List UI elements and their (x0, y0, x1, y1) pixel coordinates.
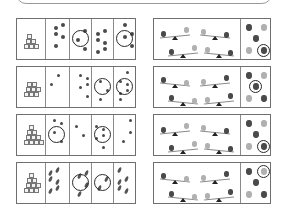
seesaw-icon (168, 45, 198, 59)
fruit-option-1[interactable] (246, 120, 252, 127)
seesaw-icon (168, 189, 198, 203)
dot-icon (61, 23, 65, 27)
cube-icon (29, 173, 34, 178)
fruit-option-1[interactable] (246, 24, 252, 31)
answer-cell-3[interactable] (92, 115, 114, 155)
dot-icon (54, 44, 58, 48)
acorn-icon (79, 86, 82, 89)
left-counting-box-1 (16, 18, 136, 60)
fruit-option-1[interactable] (246, 168, 252, 175)
fruit-icon (161, 31, 166, 37)
seesaw-icon (204, 189, 234, 203)
answer-cell-4[interactable] (114, 163, 137, 203)
fruit-option-1[interactable] (246, 72, 252, 79)
answer-cell-1[interactable] (46, 19, 70, 59)
fruit-option-2[interactable] (261, 24, 267, 31)
fruit-icon (205, 143, 210, 149)
fruit-option-3[interactable] (253, 179, 259, 186)
fruit-icon (228, 146, 233, 152)
fruit-icon (224, 171, 229, 177)
fruit-icon (192, 194, 197, 200)
seesaw-pivot (172, 36, 178, 40)
seesaw-pivot (172, 180, 178, 184)
dot-icon (54, 26, 58, 30)
seesaw-pivot (212, 36, 218, 40)
cube-icon (34, 188, 39, 193)
cube-stack-icon (23, 125, 41, 145)
answer-cell-1[interactable] (46, 67, 70, 107)
acorn-icon (99, 98, 102, 101)
cube-cell (17, 115, 46, 155)
left-counting-box-2 (16, 66, 136, 108)
acorn-icon (50, 83, 53, 86)
seed-icon (60, 122, 63, 125)
fruit-option-2[interactable] (261, 120, 267, 127)
answer-cell-1[interactable] (46, 163, 70, 203)
acorn-icon (57, 74, 60, 77)
fruit-option-4[interactable] (246, 191, 252, 198)
banana-icon (48, 176, 53, 183)
answer-cell-2[interactable] (70, 163, 92, 203)
seed-icon (122, 140, 125, 143)
fruit-option-5[interactable] (261, 95, 267, 102)
fruit-icon (228, 189, 233, 195)
seed-icon (129, 119, 132, 122)
seesaw-icon (204, 45, 234, 59)
answer-options[interactable] (241, 19, 272, 59)
fruit-icon (184, 123, 189, 129)
seesaw-pivot (180, 102, 186, 106)
fruit-icon (184, 80, 189, 86)
fruit-icon (205, 47, 210, 53)
answer-cell-3[interactable] (92, 67, 114, 107)
answer-circle (94, 174, 111, 191)
answer-circle (72, 30, 89, 47)
fruit-option-3[interactable] (253, 131, 259, 138)
answer-cell-2[interactable] (70, 67, 92, 107)
fruit-icon (201, 125, 206, 131)
banana-icon (55, 185, 60, 192)
fruit-option-2[interactable] (261, 72, 267, 79)
seesaw-pivot (212, 84, 218, 88)
dot-icon (103, 29, 107, 33)
seesaw-pivot (216, 150, 222, 154)
header-banner (16, 0, 272, 4)
seesaw-icon (168, 141, 198, 155)
fruit-option-4[interactable] (246, 95, 252, 102)
seesaw-pivot (216, 198, 222, 202)
fruit-option-4[interactable] (246, 47, 252, 54)
fruit-icon (192, 141, 197, 147)
answer-cell-1[interactable] (46, 115, 70, 155)
seesaw-pivot (216, 54, 222, 58)
fruit-option-3[interactable] (253, 35, 259, 42)
answer-options[interactable] (241, 67, 272, 107)
answer-cell-3[interactable] (92, 19, 114, 59)
fruit-option-5[interactable] (261, 191, 267, 198)
acorn-icon (126, 71, 129, 74)
banana-icon (48, 188, 53, 195)
seesaw-icon (160, 75, 190, 89)
fruit-icon (224, 75, 229, 81)
fruit-option-4[interactable] (246, 143, 252, 150)
seesaw-icon (168, 93, 198, 107)
seesaw-icon (200, 171, 230, 185)
fruit-icon (169, 95, 174, 101)
answer-options[interactable] (241, 163, 272, 203)
answer-cell-2[interactable] (70, 115, 92, 155)
answer-cell-3[interactable] (92, 163, 114, 203)
acorn-icon (86, 95, 89, 98)
fruit-icon (205, 193, 210, 199)
fruit-icon (169, 191, 174, 197)
fruit-icon (192, 45, 197, 51)
answer-cell-4[interactable] (114, 67, 137, 107)
right-seesaw-box-2 (153, 66, 271, 108)
fruit-icon (228, 50, 233, 56)
acorn-icon (119, 98, 122, 101)
answer-cell-2[interactable] (70, 19, 92, 59)
answer-cell-4[interactable] (114, 19, 137, 59)
banana-icon (117, 167, 122, 174)
fruit-icon (228, 93, 233, 99)
answer-cell-4[interactable] (114, 115, 137, 155)
seed-icon (102, 146, 105, 149)
answer-options[interactable] (241, 115, 272, 155)
seesaw-pivot (216, 102, 222, 106)
